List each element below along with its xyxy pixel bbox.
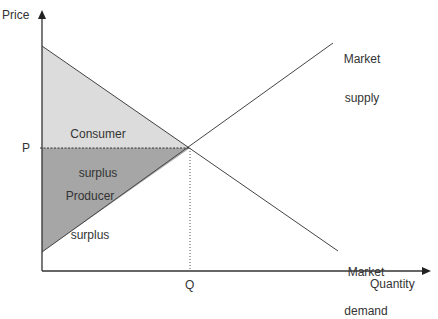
q-tick-label: Q <box>185 279 194 292</box>
demand-label: Market demand <box>336 240 396 319</box>
supply-label: Market supply <box>332 27 392 118</box>
producer-surplus-label: Producer surplus <box>50 164 130 255</box>
y-axis-label: Price <box>2 9 29 22</box>
y-axis-arrow-icon <box>38 10 46 19</box>
x-axis-arrow-icon <box>422 267 431 275</box>
p-tick-label: P <box>22 142 30 155</box>
